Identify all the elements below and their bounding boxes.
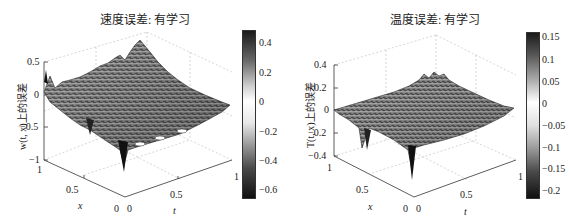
colorbar xyxy=(242,30,256,199)
t-axis-label: t xyxy=(464,206,467,217)
x-axis-label: x xyxy=(368,201,372,212)
t-tick: 0 xyxy=(416,204,421,214)
t-tick: 1 xyxy=(518,172,523,182)
velocity-error-panel: 速度误差: 有学习 xyxy=(0,0,284,221)
colorbar-tick: −0.2 xyxy=(542,186,560,196)
t-tick: 0.5 xyxy=(170,190,183,200)
colorbar-tick: −0.6 xyxy=(259,185,277,195)
z-tick: 0 xyxy=(34,90,39,100)
t-axis-label: t xyxy=(173,205,176,216)
colorbar-tick: 0.2 xyxy=(259,68,272,78)
z-tick: 0.2 xyxy=(314,83,327,93)
z-tick: 0.4 xyxy=(314,60,327,70)
colorbar-tick: −0.4 xyxy=(259,156,277,166)
colorbar-tick: 0.4 xyxy=(259,38,272,48)
colorbar-tick: −0.2 xyxy=(259,127,277,137)
z-axis-label: w(t, x)上的误差 xyxy=(14,83,29,150)
z-tick: −0.4 xyxy=(308,151,326,161)
x-tick: 0.5 xyxy=(356,185,369,195)
x-tick: 1 xyxy=(37,165,42,175)
colorbar-tick: 0.1 xyxy=(542,55,555,65)
colorbar-tick: 0.05 xyxy=(542,77,560,87)
z-tick: −0.2 xyxy=(308,128,326,138)
colorbar-tick: 0.15 xyxy=(542,32,560,42)
x-tick: 0 xyxy=(114,204,119,214)
t-tick: 1 xyxy=(234,172,239,182)
colorbar-tick: 0 xyxy=(542,99,547,109)
colorbar xyxy=(526,32,540,199)
colorbar-tick: 0 xyxy=(259,97,264,107)
x-tick: 1 xyxy=(327,163,332,173)
colorbar-tick: −0.15 xyxy=(542,164,565,174)
colorbar-tick: −0.1 xyxy=(542,143,560,153)
t-tick: 0.5 xyxy=(460,190,473,200)
z-tick: −0.5 xyxy=(20,122,38,132)
x-tick: 0.5 xyxy=(66,185,79,195)
x-axis-label: x xyxy=(78,200,82,211)
temperature-error-panel: 温度误差: 有学习 xyxy=(284,0,569,221)
x-tick: 0 xyxy=(403,204,408,214)
colorbar-tick: −0.05 xyxy=(542,121,565,131)
z-tick: 0 xyxy=(324,105,329,115)
t-tick: 0 xyxy=(127,204,132,214)
z-tick: 0.5 xyxy=(27,57,40,67)
